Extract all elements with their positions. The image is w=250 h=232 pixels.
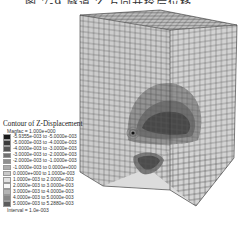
contour-legend: Contour of Z-Displacement Magfac = 1.000… <box>3 120 103 214</box>
legend-swatch <box>3 183 11 189</box>
legend-swatch <box>3 171 11 177</box>
legend-items: -5.9355e-003 to -5.0000e-003 -5.0000e-00… <box>3 134 103 207</box>
legend-swatch <box>3 177 11 183</box>
legend-swatch <box>3 153 11 159</box>
legend-swatch <box>3 134 11 140</box>
legend-title: Contour of Z-Displacement <box>3 120 103 128</box>
legend-swatch <box>3 189 11 195</box>
legend-swatch <box>3 140 11 146</box>
legend-swatch <box>3 165 11 171</box>
legend-swatch <box>3 159 11 165</box>
legend-swatch <box>3 195 11 201</box>
legend-interval: Interval = 1.0e-003 <box>7 207 103 214</box>
legend-swatch <box>3 146 11 152</box>
legend-swatch <box>3 201 11 207</box>
